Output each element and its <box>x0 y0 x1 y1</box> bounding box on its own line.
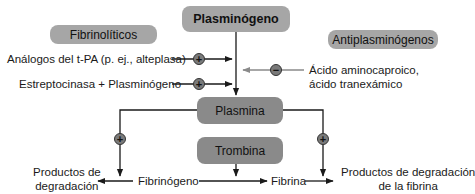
antiplasminogens-label: Antiplasminógenos <box>332 33 433 47</box>
streptokinase-label: Estreptocinasa + Plasminógeno <box>19 77 181 91</box>
plasmin-node: Plasmina <box>197 97 283 124</box>
plus-icon-tpa: + <box>193 53 205 65</box>
plasminogen-label: Plasminógeno <box>193 12 278 26</box>
plus-icon-streptokinase: + <box>193 78 205 90</box>
fdp-line1: Productos de degradación <box>341 165 475 179</box>
tpa-analogs-label: Análogos del t-PA (p. ej., alteplasa) <box>7 52 186 66</box>
inhibitor-drugs-label: Ácido aminocaproico, ácido tranexámico <box>309 63 419 91</box>
fibrinolytics-label: Fibrinolíticos <box>70 28 137 42</box>
degradation-left-line1: Productos de <box>33 165 101 179</box>
inhibitor-line2: ácido tranexámico <box>309 77 419 91</box>
minus-icon-inhibitor: − <box>270 64 282 76</box>
fibrin-degradation-products-label: Productos de degradación de la fibrina <box>341 165 475 193</box>
plus-icon-right-branch: + <box>317 133 329 145</box>
plasminogen-node: Plasminógeno <box>182 6 290 32</box>
fdp-line2: de la fibrina <box>341 179 475 193</box>
fibrinolytics-node: Fibrinolíticos <box>50 25 157 44</box>
plasmin-label: Plasmina <box>215 104 264 118</box>
inhibitor-line1: Ácido aminocaproico, <box>309 63 419 77</box>
thrombin-node: Trombina <box>197 137 283 164</box>
antiplasminogens-node: Antiplasminógenos <box>328 30 438 49</box>
fibrinogen-label: Fibrinógeno <box>138 174 199 188</box>
plus-icon-left-branch: + <box>114 133 126 145</box>
degradation-left-line2: degradación <box>33 179 101 193</box>
fibrin-label: Fibrina <box>271 174 306 188</box>
thrombin-label: Trombina <box>215 144 265 158</box>
degradation-products-left-label: Productos de degradación <box>33 165 101 193</box>
